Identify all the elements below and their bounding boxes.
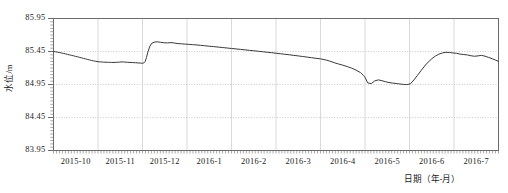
y-tick-label: 84.45 xyxy=(25,112,45,121)
x-tick-label: 2016-4 xyxy=(330,157,356,166)
axis-ticks xyxy=(48,19,499,154)
x-tick-label: 2016-1 xyxy=(196,157,222,166)
y-axis-tick-labels: 85.9585.4584.9584.4583.95 xyxy=(25,13,45,154)
y-tick-label: 84.95 xyxy=(25,79,45,88)
chart-canvas: 85.9585.4584.9584.4583.95 2015-102015-11… xyxy=(0,0,508,193)
x-tick-label: 2015-11 xyxy=(105,157,135,166)
x-axis-title: 日期（年-月） xyxy=(404,173,461,184)
x-tick-label: 2016-2 xyxy=(241,157,267,166)
y-tick-label: 83.95 xyxy=(25,145,45,154)
water-level-chart: 85.9585.4584.9584.4583.95 2015-102015-11… xyxy=(0,0,508,193)
x-tick-label: 2016-6 xyxy=(419,157,445,166)
x-tick-label: 2015-10 xyxy=(61,157,91,166)
x-tick-label: 2015-12 xyxy=(150,157,180,166)
x-axis-tick-labels: 2015-102015-112015-122016-12016-22016-32… xyxy=(61,157,489,166)
gridlines xyxy=(54,19,499,151)
y-axis-title: 水位/m xyxy=(3,64,14,91)
x-tick-label: 2016-5 xyxy=(374,157,400,166)
x-tick-label: 2016-7 xyxy=(463,157,489,166)
y-tick-label: 85.95 xyxy=(25,13,45,22)
y-tick-label: 85.45 xyxy=(25,46,45,55)
x-tick-label: 2016-3 xyxy=(285,157,311,166)
